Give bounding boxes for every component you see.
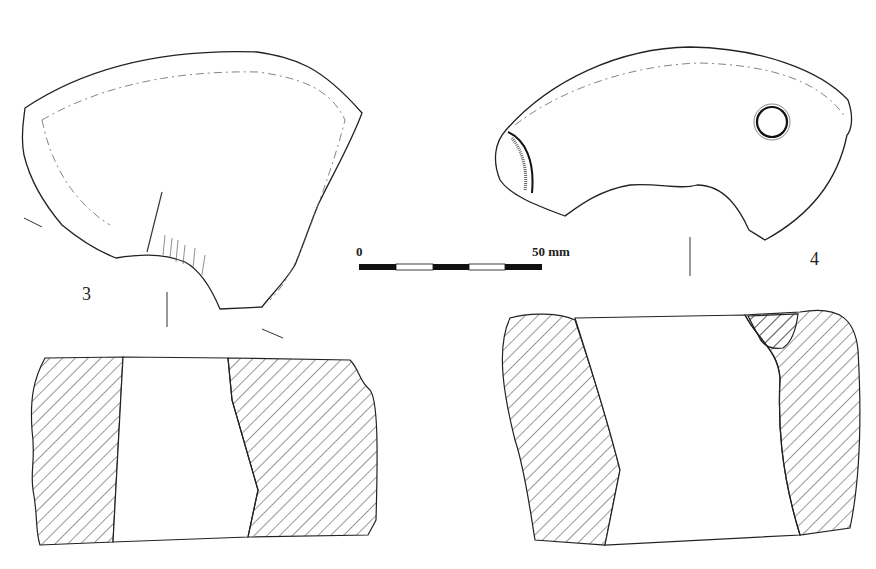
figure-number-4: 4	[810, 249, 819, 270]
fragment-4-plan	[495, 47, 851, 276]
figure-number-3: 3	[82, 284, 91, 305]
drawing-canvas	[0, 0, 876, 569]
fragment-3-section	[31, 357, 377, 545]
fragment-4-section	[502, 310, 860, 545]
scale-bar	[359, 264, 542, 270]
scale-end-label: 50 mm	[532, 244, 570, 260]
scale-start-label: 0	[356, 244, 363, 260]
fragment-3-plan	[22, 52, 362, 338]
